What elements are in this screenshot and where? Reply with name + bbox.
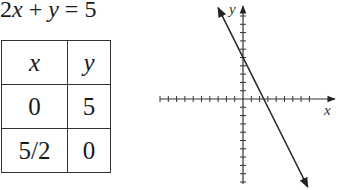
x-axis xyxy=(160,96,335,102)
coordinate-graph: x y xyxy=(0,0,343,190)
line-2x-plus-y-equals-5 xyxy=(218,8,308,187)
y-axis-label: y xyxy=(227,1,236,17)
y-axis xyxy=(240,6,246,184)
x-axis-label: x xyxy=(323,102,331,118)
